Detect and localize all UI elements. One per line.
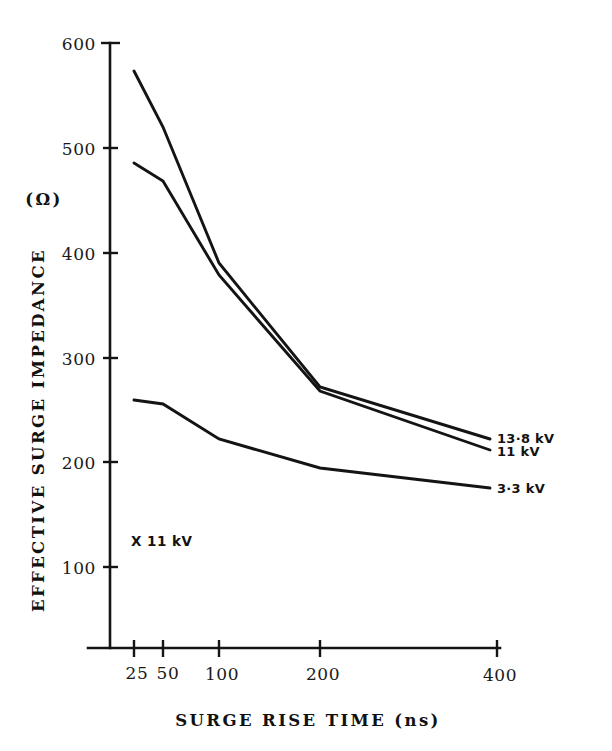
y-tick-label-300: 300: [62, 349, 96, 369]
series-line-3-3kv: [134, 400, 490, 488]
series-line-11kv: [134, 163, 490, 450]
y-tick-label-600: 600: [62, 34, 96, 54]
annotation-x-11kv: X 11 kV: [131, 533, 193, 549]
y-axis-title-group: EFFECTIVE SURGE IMPEDANCE: [29, 248, 48, 612]
y-tick-label-400: 400: [62, 244, 96, 264]
x-tick-label-50: 50: [157, 663, 180, 683]
y-axis-unit-group: (Ω): [25, 190, 63, 209]
y-axis-unit: (Ω): [25, 190, 63, 209]
y-tick-label-500: 500: [62, 139, 96, 159]
x-tick-label-25: 25: [126, 663, 149, 683]
series-label-11kv: 11 kV: [497, 444, 540, 459]
series-label-3-3kv: 3·3 kV: [497, 481, 545, 496]
x-tick-label-200: 200: [306, 664, 340, 684]
x-axis-title: SURGE RISE TIME (ns): [175, 711, 441, 730]
y-tick-label-100: 100: [62, 558, 96, 578]
x-tick-label-400: 400: [483, 665, 517, 685]
y-axis-title: EFFECTIVE SURGE IMPEDANCE: [29, 248, 48, 612]
surge-impedance-line-chart: 600 500 400 300 200 100 25 50 100 200 40…: [0, 0, 612, 751]
x-axis-tick-labels: 25 50 100 200 400: [126, 663, 518, 685]
y-axis-tick-labels: 600 500 400 300 200 100: [62, 34, 96, 578]
x-tick-label-100: 100: [205, 664, 239, 684]
y-tick-label-200: 200: [62, 453, 96, 473]
chart-figure: 600 500 400 300 200 100 25 50 100 200 40…: [0, 0, 612, 751]
